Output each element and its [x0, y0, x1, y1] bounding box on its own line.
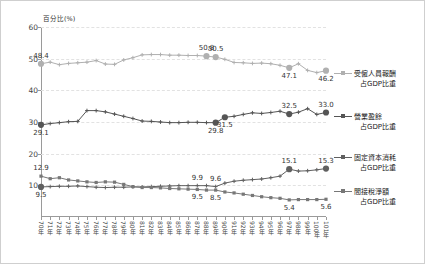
data-point [122, 114, 126, 118]
x-tick-mark [317, 217, 318, 220]
x-tick-label: 72年 [55, 221, 64, 235]
x-tick-mark [50, 217, 51, 220]
plot-area: 102030405060 70年71年72年73年74年75年76年77年78年… [41, 27, 326, 217]
data-point [324, 198, 327, 201]
data-point [168, 121, 172, 125]
data-point [67, 184, 71, 188]
highlighted-data-point [38, 122, 44, 128]
data-point-label: 15.3 [318, 157, 334, 165]
data-point [214, 188, 217, 191]
data-point [76, 179, 79, 182]
x-tick-mark [59, 217, 60, 220]
data-point [205, 188, 208, 191]
data-point [58, 176, 61, 179]
data-point-label: 15.1 [281, 157, 297, 165]
data-point [251, 194, 254, 197]
data-point-label: 29.1 [33, 129, 49, 137]
data-point [149, 119, 153, 123]
data-point [232, 61, 236, 65]
data-point [297, 169, 301, 173]
x-tick-label: 92年 [239, 221, 248, 235]
x-tick-mark [179, 217, 180, 220]
data-point [186, 184, 190, 188]
x-tick-label: 99年 [303, 221, 312, 235]
data-point [269, 196, 272, 199]
x-tick-mark [161, 217, 162, 220]
x-tick-mark [151, 217, 152, 220]
highlighted-data-point [213, 54, 219, 60]
data-point [315, 168, 319, 172]
x-tick-mark [105, 217, 106, 220]
data-point [260, 195, 263, 198]
data-point [103, 186, 107, 190]
data-point-label: 47.1 [281, 72, 297, 80]
data-point [113, 181, 116, 184]
series-line [41, 169, 326, 188]
data-point-label: 12.9 [33, 164, 49, 172]
data-point [177, 187, 180, 190]
x-tick-mark [308, 217, 309, 220]
chart-legend: 受僱人員報酬占GDP比重營業盈餘占GDP比重固定資本消耗占GDP比重間接稅淨額占… [334, 27, 424, 217]
x-tick-label: 88年 [202, 221, 211, 235]
data-point [260, 61, 264, 65]
x-tick-mark [142, 217, 143, 220]
data-point [269, 111, 273, 115]
x-tick-mark [206, 217, 207, 220]
data-point [48, 185, 52, 189]
x-tick-label: 96年 [276, 221, 285, 235]
highlighted-data-point [203, 53, 209, 59]
x-tick-label: 77年 [101, 221, 110, 235]
series-line [41, 109, 326, 125]
x-tick-mark [133, 217, 134, 220]
x-tick-mark [326, 217, 327, 220]
x-tick-mark [225, 217, 226, 220]
x-tick-label: 81年 [138, 221, 147, 235]
legend-swatch-icon [334, 112, 352, 121]
chart-container: 百分比(%) 102030405060 70年71年72年73年74年75年76… [0, 0, 425, 264]
y-tick-label: 10 [28, 181, 38, 190]
data-point-label: 9.5 [192, 193, 203, 201]
legend-item-3[interactable]: 間接稅淨額占GDP比重 [334, 187, 396, 207]
data-point [131, 117, 135, 121]
legend-item-0[interactable]: 受僱人員報酬占GDP比重 [334, 69, 396, 89]
x-tick-label: 86年 [184, 221, 193, 235]
data-point [168, 187, 171, 190]
data-point [131, 185, 134, 188]
x-tick-label: 95年 [266, 221, 275, 235]
highlighted-data-point [38, 61, 44, 67]
x-tick-mark [234, 217, 235, 220]
data-point [297, 198, 300, 201]
x-tick-mark [289, 217, 290, 220]
data-point [85, 60, 89, 64]
y-tick-label: 60 [28, 23, 38, 32]
legend-swatch-icon [334, 187, 352, 196]
x-tick-label: 80年 [128, 221, 137, 235]
y-tick-label: 30 [28, 118, 38, 127]
data-point [122, 183, 125, 186]
data-point [260, 177, 264, 181]
data-point [260, 112, 264, 116]
legend-item-2[interactable]: 固定資本消耗占GDP比重 [334, 153, 396, 173]
data-point [232, 114, 236, 118]
data-point [278, 63, 282, 67]
data-point [223, 190, 226, 193]
data-point [67, 62, 71, 66]
data-point [232, 191, 235, 194]
x-tick-label: 91年 [230, 221, 239, 235]
x-tick-label: 75年 [82, 221, 91, 235]
data-point-label: 31.5 [217, 121, 233, 129]
series-line [41, 55, 326, 73]
legend-item-1[interactable]: 營業盈餘占GDP比重 [334, 112, 396, 132]
x-tick-label: 70年 [37, 221, 46, 235]
data-point [49, 177, 52, 180]
data-point [195, 54, 199, 58]
series-layer [41, 27, 326, 217]
data-point [223, 181, 227, 185]
legend-label: 間接稅淨額占GDP比重 [354, 187, 396, 207]
x-tick-label: 74年 [73, 221, 82, 235]
data-point [48, 122, 52, 126]
data-point [39, 175, 42, 178]
data-point-label: 9.6 [210, 175, 221, 183]
data-point [57, 121, 61, 125]
legend-label: 固定資本消耗占GDP比重 [354, 153, 396, 173]
